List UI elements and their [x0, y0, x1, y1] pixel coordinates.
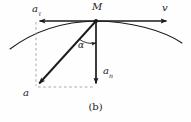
a-tau-label: aτ	[32, 4, 41, 16]
a-total-label: a	[23, 88, 29, 98]
velocity-label: v	[162, 3, 168, 13]
a-tau-subscript: τ	[38, 10, 41, 17]
figure-caption: (b)	[0, 101, 191, 112]
point-M-label: M	[92, 2, 102, 12]
a-vector-arrow	[39, 21, 96, 84]
a-n-subscript: n	[109, 72, 113, 79]
figure-container: aτ M v α an a (b)	[0, 0, 191, 122]
point-M-marker	[94, 19, 98, 23]
a-n-label: an	[103, 66, 113, 78]
alpha-angle-label: α	[78, 41, 84, 50]
